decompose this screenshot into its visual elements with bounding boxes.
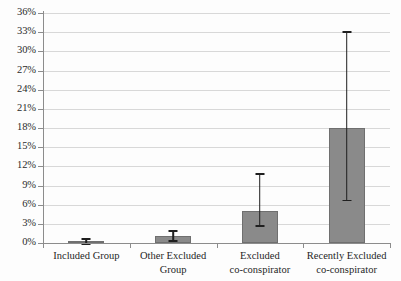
- y-tick-label: 21%: [2, 103, 36, 114]
- y-tick-label: 3%: [2, 218, 36, 229]
- gridline: [43, 51, 390, 52]
- y-tick-label: 0%: [2, 237, 36, 248]
- x-axis-category-label-line: Included Group: [43, 249, 130, 263]
- y-tick-label: 27%: [2, 65, 36, 76]
- x-tick-mark: [390, 243, 391, 248]
- x-tick-mark: [130, 243, 131, 248]
- x-axis-category-label-line: Recently Excluded: [303, 249, 390, 263]
- gridline: [43, 90, 390, 91]
- error-bar-cap-upper: [169, 230, 178, 232]
- error-bar-line: [346, 31, 348, 200]
- x-tick-mark: [217, 243, 218, 248]
- x-axis-category-label-line: Group: [130, 263, 217, 277]
- gridline: [43, 71, 390, 72]
- x-axis-category-label-line: co-conspirator: [303, 263, 390, 277]
- y-tick-label: 30%: [2, 45, 36, 56]
- x-axis-category-label: Recently Excludedco-conspirator: [303, 249, 390, 277]
- bar-chart: 0%3%6%9%12%15%18%21%24%27%30%33%36% Incl…: [0, 0, 401, 281]
- error-bar-line: [259, 173, 261, 225]
- error-bar-cap-upper: [342, 31, 351, 33]
- y-tick-label: 18%: [2, 122, 36, 133]
- x-tick-mark: [303, 243, 304, 248]
- error-bar-cap-lower: [169, 240, 178, 242]
- x-axis-category-label: Included Group: [43, 249, 130, 263]
- y-axis-line: [43, 11, 44, 244]
- y-axis-labels: 0%3%6%9%12%15%18%21%24%27%30%33%36%: [0, 0, 36, 281]
- error-bar-cap-upper: [255, 173, 264, 175]
- y-tick-label: 36%: [2, 7, 36, 18]
- x-tick-mark: [43, 243, 44, 248]
- x-axis-category-label-line: co-conspirator: [217, 263, 304, 277]
- y-tick-label: 9%: [2, 180, 36, 191]
- x-axis-category-label: Excludedco-conspirator: [217, 249, 304, 277]
- y-tick-label: 6%: [2, 199, 36, 210]
- y-tick-label: 24%: [2, 84, 36, 95]
- x-axis-category-label: Other ExcludedGroup: [130, 249, 217, 277]
- error-bar-cap-lower: [255, 225, 264, 227]
- y-tick-label: 33%: [2, 26, 36, 37]
- gridline: [43, 32, 390, 33]
- x-axis-labels: Included GroupOther ExcludedGroupExclude…: [43, 249, 390, 281]
- gridline: [43, 13, 390, 14]
- plot-area: [43, 13, 390, 243]
- x-axis-category-label-line: Excluded: [217, 249, 304, 263]
- error-bar-cap-lower: [342, 200, 351, 202]
- y-tick-label: 15%: [2, 141, 36, 152]
- error-bar-cap-upper: [82, 238, 91, 240]
- x-axis-category-label-line: Other Excluded: [130, 249, 217, 263]
- gridline: [43, 109, 390, 110]
- y-tick-label: 12%: [2, 160, 36, 171]
